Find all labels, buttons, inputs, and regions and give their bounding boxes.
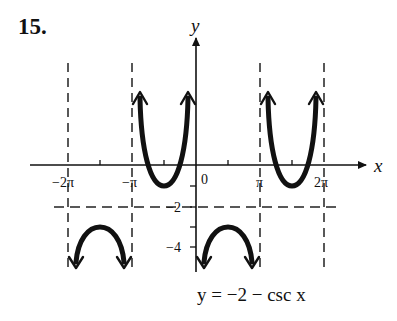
- x-axis-title: x: [373, 155, 383, 176]
- y-axis-title: y: [189, 15, 200, 36]
- equation-caption: y = −2 − csc x: [197, 284, 306, 306]
- x-tick-label-two-pi: 2π: [314, 175, 328, 190]
- x-tick-label-neg-two-pi: −2π: [52, 175, 74, 190]
- x-tick-label-neg-pi: −π: [122, 175, 137, 190]
- x-tick-label-pi: π: [256, 175, 263, 190]
- branch-upward-left: [140, 98, 188, 186]
- graph: −2π −π 0 π 2π −2 −4 x y: [0, 0, 397, 321]
- branch-upward-right: [268, 98, 316, 186]
- y-tick-label-neg-four: −4: [166, 240, 181, 255]
- y-ticks: [190, 186, 196, 247]
- x-tick-label-zero: 0: [201, 172, 208, 187]
- y-tick-label-neg-two: −2: [166, 200, 181, 215]
